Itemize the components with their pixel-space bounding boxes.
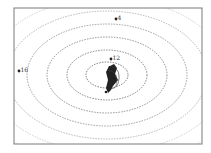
trajectory-cluster xyxy=(105,64,119,93)
label-4: 4 xyxy=(118,14,122,21)
contour-plot: 4 12 16 xyxy=(0,0,211,153)
label-12: 12 xyxy=(113,54,121,61)
label-16: 16 xyxy=(21,66,29,73)
contour-lines xyxy=(0,0,211,153)
labeled-points: 4 12 16 xyxy=(18,14,122,73)
